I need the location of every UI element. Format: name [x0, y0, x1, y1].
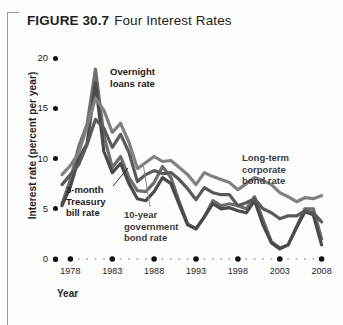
annotation-long-term-corporate-bond-rate: Long-term corporate bond rate: [242, 152, 289, 187]
x-axis-major-dot: [193, 256, 199, 262]
x-tick-label: 1978: [53, 266, 87, 276]
figure-container: FIGURE 30.7Four Interest Rates 05101520 …: [0, 0, 343, 325]
x-axis-major-dot: [110, 256, 116, 262]
x-axis-major-dot: [68, 256, 74, 262]
axis-dots-layer: [53, 256, 325, 262]
annotation-overnight-loans-rate: Overnight loans rate: [110, 66, 155, 89]
x-axis-minor-dot: [312, 258, 314, 260]
x-axis-minor-dot: [262, 258, 264, 260]
x-tick-label: 1988: [137, 266, 171, 276]
y-tick-dot: [53, 257, 58, 262]
x-axis-title: Year: [57, 288, 78, 299]
x-axis-minor-dot: [128, 258, 130, 260]
x-axis-minor-dot: [295, 258, 297, 260]
annotation-10-year-government-bond-rate: 10-year government bond rate: [124, 209, 178, 244]
x-tick-label: 1998: [221, 266, 255, 276]
x-axis-minor-dot: [254, 258, 256, 260]
y-tick-label: 20: [28, 52, 48, 63]
x-axis-minor-dot: [120, 258, 122, 260]
annotation-3-month-treasury-bill-rate: 3-month Treasury bill rate: [66, 184, 106, 219]
x-tick-label: 2008: [305, 266, 339, 276]
x-axis-minor-dot: [145, 258, 147, 260]
chart-plot-area: [0, 0, 343, 325]
x-axis-major-dot: [319, 256, 325, 262]
x-axis-major-dot: [151, 256, 157, 262]
x-tick-label: 1983: [95, 266, 129, 276]
x-axis-minor-dot: [178, 258, 180, 260]
x-axis-major-dot: [235, 256, 241, 262]
x-axis-minor-dot: [203, 258, 205, 260]
y-tick-label: 0: [28, 253, 48, 264]
y-tick-dot: [53, 56, 58, 61]
chart-svg: [0, 0, 343, 325]
x-axis-minor-dot: [245, 258, 247, 260]
x-axis-minor-dot: [136, 258, 138, 260]
x-axis-minor-dot: [170, 258, 172, 260]
y-tick-dot: [53, 156, 58, 161]
x-axis-minor-dot: [94, 258, 96, 260]
x-axis-minor-dot: [78, 258, 80, 260]
x-axis-minor-dot: [287, 258, 289, 260]
x-axis-minor-dot: [103, 258, 105, 260]
x-axis-minor-dot: [86, 258, 88, 260]
x-axis-major-dot: [277, 256, 283, 262]
x-axis-minor-dot: [161, 258, 163, 260]
x-axis-minor-dot: [187, 258, 189, 260]
x-tick-label: 2003: [263, 266, 297, 276]
y-axis-title: Interest rate (percent per year): [27, 66, 38, 226]
x-axis-minor-dot: [212, 258, 214, 260]
x-axis-minor-dot: [270, 258, 272, 260]
y-tick-dot: [53, 106, 58, 111]
x-axis-minor-dot: [228, 258, 230, 260]
x-axis-minor-dot: [220, 258, 222, 260]
x-tick-label: 1993: [179, 266, 213, 276]
x-axis-minor-dot: [304, 258, 306, 260]
